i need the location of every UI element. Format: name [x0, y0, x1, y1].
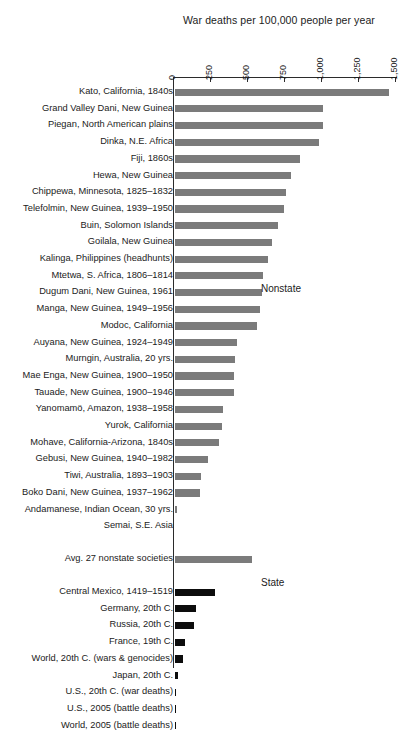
chart-row: Telefolmin, New Guinea, 1939–1950: [0, 203, 419, 220]
row-label: Andamanese, Indian Ocean, 30 yrs.: [25, 504, 173, 515]
bar: [175, 473, 202, 480]
chart-row: Tiwi, Australia, 1893–1903: [0, 470, 419, 487]
row-label: Grand Valley Dani, New Guinea: [42, 103, 173, 114]
x-tick-label-0: 0: [167, 75, 177, 80]
chart-row: Kalinga, Philippines (headhunts): [0, 253, 419, 270]
chart-row: Avg. 27 nonstate societies: [0, 553, 419, 570]
bar: [175, 239, 273, 246]
row-label: World, 2005 (battle deaths): [61, 720, 173, 731]
bar: [175, 322, 258, 329]
row-label: Telefolmin, New Guinea, 1939–1950: [23, 203, 173, 214]
x-tick-label-1500: 1,500: [389, 57, 399, 80]
chart-row: Goilala, New Guinea: [0, 236, 419, 253]
row-label: Buin, Solomon Islands: [80, 220, 173, 231]
row-label: Hewa, New Guinea: [93, 170, 173, 181]
row-label: Central Mexico, 1419–1519: [59, 586, 173, 597]
row-label: Mtetwa, S. Africa, 1806–1814: [52, 270, 173, 281]
bar: [175, 205, 285, 212]
row-label: Yurok, California: [105, 420, 173, 431]
bar: [175, 339, 237, 346]
bar: [175, 689, 176, 696]
chart-row: Grand Valley Dani, New Guinea: [0, 103, 419, 120]
bar: [175, 139, 319, 146]
row-label: Dugum Dani, New Guinea, 1961: [39, 286, 173, 297]
bar: [175, 105, 323, 112]
row-label: Modoc, California: [101, 320, 173, 331]
chart-row: Mohave, California-Arizona, 1840s: [0, 437, 419, 454]
bar: [175, 589, 216, 596]
bar: [175, 456, 208, 463]
x-tick-label-500: 500: [241, 65, 251, 80]
chart-row: Buin, Solomon Islands: [0, 220, 419, 237]
row-label: Kato, California, 1840s: [79, 86, 173, 97]
chart-row: Piegan, North American plains: [0, 119, 419, 136]
row-label: Tauade, New Guinea, 1900–1946: [34, 387, 173, 398]
chart-row: Germany, 20th C.: [0, 603, 419, 620]
x-tick-label-1000: 1,000: [315, 57, 325, 80]
chart-row: Modoc, California: [0, 320, 419, 337]
row-label: Fiji, 1860s: [131, 153, 173, 164]
bar: [175, 389, 234, 396]
chart-row: Dugum Dani, New Guinea, 1961: [0, 286, 419, 303]
bar: [175, 622, 195, 629]
bar: [175, 306, 261, 313]
row-label: Russia, 20th C.: [109, 619, 173, 630]
bar: [175, 89, 390, 96]
chart-row: U.S., 2005 (battle deaths): [0, 703, 419, 720]
bar: [175, 439, 219, 446]
chart-row: Fiji, 1860s: [0, 153, 419, 170]
chart-row: Yurok, California: [0, 420, 419, 437]
bar: [175, 705, 176, 712]
chart-row: Semai, S.E. Asia: [0, 520, 419, 537]
bar: [175, 122, 323, 129]
row-label: Japan, 20th C.: [113, 670, 173, 681]
chart-row: World, 2005 (battle deaths): [0, 720, 419, 734]
row-label: Kalinga, Philippines (headhunts): [40, 253, 173, 264]
chart-row: Tauade, New Guinea, 1900–1946: [0, 387, 419, 404]
chart-row: U.S., 20th C. (war deaths): [0, 686, 419, 703]
bar: [175, 722, 176, 729]
bar: [175, 423, 222, 430]
chart-row: Russia, 20th C.: [0, 619, 419, 636]
chart-row: Kato, California, 1840s: [0, 86, 419, 103]
bar: [175, 672, 179, 679]
bar: [175, 506, 178, 513]
bar: [175, 256, 268, 263]
bar: [175, 372, 235, 379]
row-label: Gebusi, New Guinea, 1940–1982: [36, 453, 173, 464]
bar: [175, 489, 200, 496]
row-label: U.S., 2005 (battle deaths): [67, 703, 173, 714]
row-label: Goilala, New Guinea: [88, 236, 173, 247]
chart-row: Manga, New Guinea, 1949–1956: [0, 303, 419, 320]
bar: [175, 172, 292, 179]
row-label: Boko Dani, New Guinea, 1937–1962: [22, 487, 173, 498]
row-label: Auyana, New Guinea, 1924–1949: [33, 337, 173, 348]
chart-row: Gebusi, New Guinea, 1940–1982: [0, 453, 419, 470]
row-label: France, 19th C.: [109, 636, 173, 647]
chart-row: Chippewa, Minnesota, 1825–1832: [0, 186, 419, 203]
group-label-nonstate: Nonstate: [261, 283, 301, 294]
chart-row: Boko Dani, New Guinea, 1937–1962: [0, 487, 419, 504]
chart-row: Japan, 20th C.: [0, 670, 419, 687]
bar: [175, 556, 253, 563]
chart-row: Andamanese, Indian Ocean, 30 yrs.: [0, 504, 419, 521]
chart-row: Yanomamö, Amazon, 1938–1958: [0, 403, 419, 420]
row-label: Mohave, California-Arizona, 1840s: [30, 437, 173, 448]
bar: [175, 605, 196, 612]
chart-row: France, 19th C.: [0, 636, 419, 653]
bar: [175, 406, 224, 413]
bar: [175, 655, 184, 662]
chart-row: Hewa, New Guinea: [0, 170, 419, 187]
bar: [175, 356, 236, 363]
chart-title: War deaths per 100,000 people per year: [183, 14, 419, 26]
row-label: Semai, S.E. Asia: [104, 520, 173, 531]
bar: [175, 189, 286, 196]
chart-row: Mtetwa, S. Africa, 1806–1814: [0, 270, 419, 287]
row-label: World, 20th C. (wars & genocides): [32, 653, 173, 664]
row-label: Avg. 27 nonstate societies: [65, 553, 173, 564]
row-label: U.S., 20th C. (war deaths): [66, 686, 173, 697]
bar: [175, 272, 264, 279]
row-label: Tiwi, Australia, 1893–1903: [64, 470, 173, 481]
chart-row: Auyana, New Guinea, 1924–1949: [0, 337, 419, 354]
